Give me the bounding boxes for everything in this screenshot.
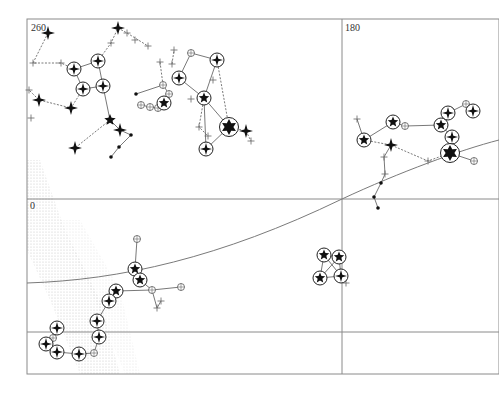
star-ring-sparkle-icon	[172, 71, 186, 85]
star-ring-sparkle-icon	[67, 62, 81, 76]
star-ring-sparkle-icon	[441, 106, 455, 120]
faint-star-cross-icon	[382, 171, 389, 178]
faint-star-cross-icon	[30, 60, 37, 67]
faint-star-circle-icon	[134, 236, 141, 243]
star-ring-star-icon	[332, 250, 346, 264]
constellation-line	[33, 33, 74, 69]
faint-star-cross-icon	[354, 116, 361, 123]
star-ring-sparkle-icon	[72, 347, 86, 361]
faint-star-circle-icon	[147, 104, 154, 111]
faint-star-circle-icon	[138, 102, 145, 109]
faint-star-circle-icon	[149, 287, 156, 294]
star-ring-big-icon	[220, 118, 239, 137]
star-sparkle-icon	[239, 124, 253, 138]
star-ring-sparkle-icon	[92, 330, 106, 344]
faint-star-circle-icon	[402, 123, 409, 130]
star-ring-sparkle-icon	[102, 294, 116, 308]
constellation-line	[75, 120, 110, 148]
coordinate-labels: 260 180 0	[30, 22, 360, 211]
faint-star-dot-icon	[134, 92, 138, 96]
star-ring-star-icon	[357, 133, 371, 147]
star-sparkle-icon	[32, 93, 46, 107]
star-ring-star-icon	[157, 96, 171, 110]
constellation-line	[29, 89, 83, 108]
faint-star-cross-icon	[145, 43, 152, 50]
star-ring-sparkle-icon	[76, 82, 90, 96]
faint-star-cross-icon	[171, 47, 178, 54]
star-ring-sparkle-icon	[334, 269, 348, 283]
star-ring-big-icon	[441, 144, 460, 163]
star-ring-sparkle-icon	[210, 53, 224, 67]
star-chart: 260 180 0	[0, 0, 499, 394]
faint-star-dot-icon	[117, 145, 121, 149]
faint-star-dot-icon	[376, 206, 380, 210]
star-ring-sparkle-icon	[445, 130, 459, 144]
faint-star-dot-icon	[109, 155, 113, 159]
faint-star-cross-icon	[169, 61, 176, 68]
faint-star-cross-icon	[248, 138, 255, 145]
star-ring-sparkle-icon	[91, 54, 105, 68]
faint-star-dot-icon	[129, 133, 133, 137]
constellation-line	[364, 140, 450, 161]
constellation-line	[118, 28, 148, 46]
faint-star-dot-icon	[379, 181, 383, 185]
faint-star-circle-icon	[188, 50, 195, 57]
constellation-line	[217, 60, 229, 127]
star-ring-sparkle-icon	[96, 79, 110, 93]
faint-star-circle-icon	[160, 82, 167, 89]
faint-star-cross-icon	[154, 305, 161, 312]
star-sparkle-icon	[111, 21, 125, 35]
faint-star-circle-icon	[178, 284, 185, 291]
faint-star-cross-icon	[210, 77, 217, 84]
star-ring-star-icon	[317, 248, 331, 262]
faint-star-cross-icon	[381, 154, 388, 161]
faint-star-cross-icon	[188, 96, 195, 103]
faint-star-cross-icon	[108, 40, 115, 47]
ra-label-180: 180	[345, 22, 360, 33]
faint-star-cross-icon	[132, 37, 139, 44]
faint-star-dot-icon	[372, 195, 376, 199]
faint-star-cross-icon	[28, 115, 35, 122]
faint-star-cross-icon	[124, 30, 131, 37]
faint-star-cross-icon	[157, 59, 164, 66]
star-ring-star-icon	[133, 273, 147, 287]
star-ring-sparkle-icon	[466, 104, 480, 118]
star-ring-sparkle-icon	[199, 142, 213, 156]
faint-star-circle-icon	[471, 158, 478, 165]
faint-star-cross-icon	[158, 298, 165, 305]
star-ring-star-icon	[197, 91, 211, 105]
star-ring-star-icon	[313, 271, 327, 285]
faint-star-cross-icon	[58, 60, 65, 67]
ra-label-260: 260	[31, 22, 46, 33]
star-ring-sparkle-icon	[50, 321, 64, 335]
star-ring-star-icon	[386, 115, 400, 129]
star-sparkle-icon	[384, 138, 398, 152]
faint-star-circle-icon	[91, 350, 98, 357]
star-ring-sparkle-icon	[90, 314, 104, 328]
dec-label-0: 0	[30, 200, 35, 211]
star-ring-sparkle-icon	[50, 345, 64, 359]
constellation-line	[103, 86, 131, 157]
star-sparkle-icon	[68, 141, 82, 155]
star-sparkle-icon	[64, 101, 78, 115]
